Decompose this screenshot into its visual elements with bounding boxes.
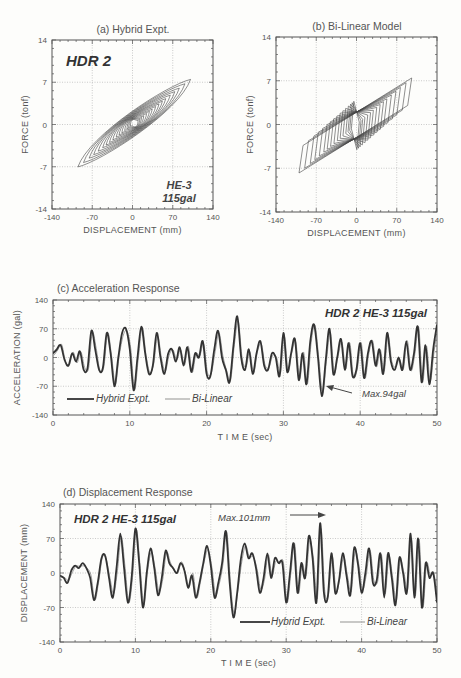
x-axis-label: T I M E (sec) [217,432,272,442]
y-tick-label: -140 [32,411,49,420]
x-tick-label: 0 [51,419,56,428]
y-tick-label: 0 [44,354,49,363]
x-tick-label: 20 [206,646,215,655]
x-tick-label: 0 [354,216,359,225]
y-tick-label: -7 [40,163,48,172]
y-tick-label: -14 [259,208,271,217]
x-axis-label: DISPLACEMENT (mm) [83,225,181,235]
y-tick-label: 70 [39,325,48,334]
chart-title: (b) Bi-Linear Model [312,20,401,32]
x-tick-label: -140 [44,213,61,222]
specimen-label: HDR 2 [66,52,112,69]
hysteresis-loop [130,119,138,126]
y-tick-label: 7 [267,77,272,86]
series-lines [60,523,438,617]
y-axis-label: ACCELERATION (gal) [12,310,22,405]
wave-label: HE-3 [166,179,191,191]
plot-c: 01020304050140700-70-140(c) Acceleration… [12,282,442,442]
chart-title: (a) Hybrid Expt. [97,23,170,35]
x-tick-label: 0 [58,646,63,655]
hysteresis-loop [106,101,162,145]
chart-title: (c) Acceleration Response [57,282,180,294]
y-axis-label: FORCE (tonf) [245,95,255,154]
x-tick-label: -140 [268,216,285,225]
x-tick-label: 10 [131,646,140,655]
y-tick-label: -14 [35,205,47,214]
legend-label-bilinear: Bi-Linear [367,616,408,627]
y-tick-label: -70 [43,604,55,613]
x-tick-label: 10 [125,419,134,428]
x-tick-label: -70 [86,213,98,222]
legend-label-bilinear: Bi-Linear [192,393,233,404]
y-tick-label: 14 [262,33,271,42]
y-tick-label: 0 [51,569,56,578]
y-tick-label: -7 [264,164,272,173]
x-tick-label: 140 [206,213,220,222]
x-tick-label: 30 [279,419,288,428]
y-tick-label: -70 [36,382,48,391]
y-tick-label: 0 [267,121,272,130]
y-tick-label: 7 [43,78,48,87]
x-tick-label: 70 [168,213,177,222]
hysteresis-loops [299,78,412,173]
x-tick-label: 70 [392,216,401,225]
y-axis-label: DISPLACEMENT (mm) [19,524,29,622]
figure: -140-700701401470-7-14(a) Hybrid Expt.DI… [0,0,461,678]
amplitude-label: 115gal [162,192,196,204]
y-tick-label: 14 [38,36,47,45]
hysteresis-loop [299,78,412,173]
y-tick-label: 70 [46,535,55,544]
max-label: Max.101mm [218,512,270,523]
legend-label-hybrid: Hybrid Expt. [271,616,325,627]
x-axis-label: DISPLACEMENT (mm) [307,228,405,238]
x-tick-label: 40 [357,646,366,655]
hysteresis-loop [78,79,191,167]
y-axis-label: FORCE (tonf) [20,95,30,154]
arrow-head-icon [326,385,334,391]
hysteresis-loop [103,99,166,148]
plot-a: -140-700701401470-7-14(a) Hybrid Expt.DI… [20,23,220,235]
arrow-head-icon [318,512,326,518]
x-tick-label: 0 [130,213,135,222]
x-tick-label: 50 [433,419,442,428]
x-tick-label: 20 [202,419,211,428]
case-label: HDR 2 HE-3 115gal [325,307,428,319]
x-tick-label: 40 [356,419,365,428]
x-tick-label: -70 [310,216,322,225]
case-label: HDR 2 HE-3 115gal [74,513,177,525]
hybrid-expt-line [60,523,437,617]
x-tick-label: 140 [430,216,444,225]
chart-title: (d) Displacement Response [63,486,193,498]
legend-label-hybrid: Hybrid Expt. [96,393,150,404]
y-tick-label: 0 [43,121,48,130]
max-arrow [330,387,352,393]
x-tick-label: 30 [282,646,291,655]
x-tick-label: 50 [433,646,442,655]
plot-b: -140-700701401470-7-14(b) Bi-Linear Mode… [245,20,444,238]
hybrid-expt-line [53,316,437,396]
y-tick-label: 140 [42,500,56,509]
hysteresis-loops [78,79,191,167]
hysteresis-loop [98,95,170,151]
x-axis-label: T I M E (sec) [221,658,276,668]
max-label: Max.94gal [362,388,407,399]
y-tick-label: 140 [35,296,49,305]
y-tick-label: -140 [39,638,56,647]
series-lines [53,316,438,396]
plot-d: 01020304050140700-70-140(d) Displacement… [19,486,442,668]
